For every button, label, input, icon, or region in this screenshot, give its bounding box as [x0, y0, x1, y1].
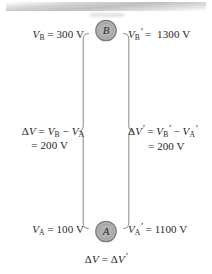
label-v-a-right-value: 1100 V: [155, 223, 188, 235]
label-conclusion-equals: =: [102, 253, 108, 265]
label-v-b-right-value: 1300 V: [157, 28, 190, 40]
label-delta-v-left-line1: ΔV = VB − VA: [22, 125, 84, 137]
point-a-letter: A: [102, 225, 110, 237]
label-conclusion: ΔV = ΔV′: [0, 252, 212, 267]
label-v-b-left-value: 300 V: [57, 28, 85, 40]
label-v-b-right: VB′ = 1300 V: [128, 27, 208, 42]
label-v-a-left: VA = 100 V: [8, 222, 84, 236]
label-delta-v-right-value: 200 V: [157, 140, 185, 152]
point-b-letter: B: [103, 24, 110, 36]
point-b-node: B: [96, 20, 116, 40]
label-v-b-right-prime: ′: [140, 26, 142, 37]
label-v-a-left-equals: =: [47, 223, 53, 235]
label-delta-v-left-line2: = 200 V: [2, 138, 84, 152]
label-delta-v-right: ΔV′ = VB′ − VA′ = 200 V: [128, 124, 212, 153]
label-v-a-right-equals: =: [145, 223, 151, 235]
label-v-b-left-equals: =: [47, 28, 53, 40]
label-delta-v-right-line2: = 200 V: [128, 139, 212, 153]
label-delta-v-left: ΔV = VB − VA = 200 V: [2, 124, 84, 152]
label-v-b-left-subscript: B: [39, 33, 44, 42]
label-delta-v-right-line1: ΔV′ = VB′ − VA′: [128, 125, 197, 137]
label-delta-v-left-value: 200 V: [41, 139, 69, 151]
label-v-b-left: VB = 300 V: [8, 27, 84, 41]
potential-difference-figure: B A VB = 300 V VB′ = 1300 V ΔV = VB − VA…: [0, 0, 212, 274]
label-v-a-right: VA′ = 1100 V: [128, 222, 208, 237]
label-conclusion-right: ΔV′: [111, 253, 127, 265]
label-v-a-right-prime: ′: [141, 221, 143, 232]
label-v-a-left-subscript: A: [39, 228, 44, 237]
label-conclusion-left: ΔV: [85, 253, 99, 265]
label-v-a-right-subscript: A: [135, 228, 140, 237]
point-a-node: A: [96, 221, 116, 241]
label-v-a-left-value: 100 V: [57, 223, 85, 235]
label-v-b-right-equals: =: [145, 28, 151, 40]
